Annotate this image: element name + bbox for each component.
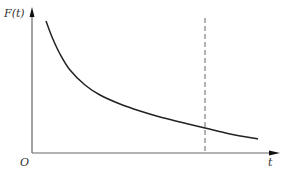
x-axis-arrow-icon (269, 151, 280, 156)
chart: F(t) t O (0, 0, 283, 180)
x-axis (32, 151, 280, 156)
f-t-curve (46, 21, 258, 139)
y-axis-label: F(t) (3, 7, 25, 20)
origin-label: O (20, 156, 29, 169)
x-axis-label: t (268, 156, 273, 169)
y-axis-arrow-icon (30, 7, 35, 17)
y-axis (30, 7, 35, 153)
